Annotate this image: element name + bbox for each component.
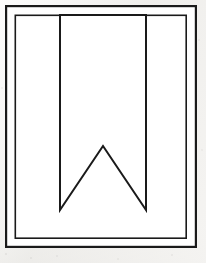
illustration-canvas: Swallowtail banner pennant line drawing … bbox=[0, 0, 206, 263]
banner-line-art-drawing: Swallowtail banner pennant line drawing … bbox=[0, 0, 206, 263]
